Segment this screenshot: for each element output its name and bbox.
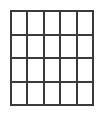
grid-cell-r3-c5 [78,59,92,81]
grid-cell-r1-c1 [12,12,26,34]
grid-cell-r4-c4 [61,83,75,105]
grid-cell-r4-c5 [78,83,92,105]
grid-cell-r4-c2 [28,83,42,105]
grid-cell-r4-c3 [45,83,59,105]
grid-cell-r2-c2 [28,36,42,58]
grid-cell-r1-c4 [61,12,75,34]
grid-cell-r2-c4 [61,36,75,58]
grid-cell-r3-c3 [45,59,59,81]
grid-cell-r2-c5 [78,36,92,58]
grid-cell-r3-c4 [61,59,75,81]
grid-cell-r3-c2 [28,59,42,81]
rectangular-grid [10,10,94,106]
grid-cell-r4-c1 [12,83,26,105]
grid-cell-r1-c3 [45,12,59,34]
grid-cell-r3-c1 [12,59,26,81]
grid-cell-r2-c1 [12,36,26,58]
grid-cell-r1-c2 [28,12,42,34]
grid-cell-r1-c5 [78,12,92,34]
grid-cell-r2-c3 [45,36,59,58]
figure-canvas [0,0,103,113]
